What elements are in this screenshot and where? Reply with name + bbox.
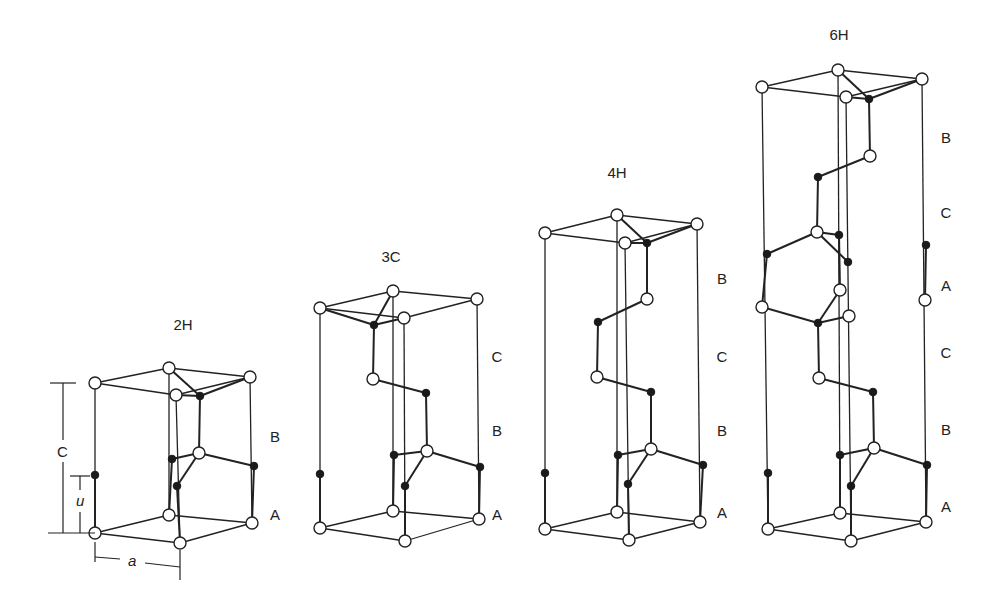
cell-edge <box>768 513 840 529</box>
bond-line <box>320 308 374 325</box>
silicon-atom <box>834 284 846 296</box>
silicon-atom <box>539 227 551 239</box>
stacking-layer-label: A <box>270 506 280 523</box>
bond-line <box>200 377 250 396</box>
carbon-atom <box>168 455 176 463</box>
stacking-layer-label: C <box>941 204 952 221</box>
silicon-atom <box>619 237 631 249</box>
bond-line <box>817 177 818 232</box>
silicon-atom <box>756 81 768 93</box>
cell-edge <box>629 522 700 540</box>
bond-line <box>479 467 480 519</box>
cell-edge <box>840 513 926 522</box>
silicon-atom <box>193 447 205 459</box>
bond-line <box>762 307 818 323</box>
carbon-atom <box>476 463 484 471</box>
cell-edge <box>768 529 851 541</box>
cell-edge <box>95 533 180 543</box>
dimension-markers: C u a <box>48 383 180 580</box>
bond-line <box>393 455 394 511</box>
silicon-atom <box>864 150 876 162</box>
cell-edge <box>545 233 625 243</box>
cell-edge <box>320 291 393 308</box>
silicon-atom <box>611 506 623 518</box>
bond-line <box>819 378 873 392</box>
silicon-atom <box>174 537 186 549</box>
silicon-atom <box>641 293 653 305</box>
unit-cell-4h: 4HBCBA <box>539 164 728 546</box>
silicon-atom <box>314 522 326 534</box>
bond-line <box>869 99 870 156</box>
carbon-atom <box>847 482 855 490</box>
carbon-atom <box>196 392 204 400</box>
unit-cell-6h: 6HBCACBA <box>756 26 952 547</box>
silicon-atom <box>314 302 326 314</box>
silicon-atom <box>920 516 932 528</box>
stacking-layer-label: B <box>492 422 502 439</box>
carbon-atom <box>922 241 930 249</box>
unit-cell-2h: 2HBA <box>89 316 280 549</box>
carbon-atom <box>763 250 771 258</box>
cell-edge <box>95 383 176 395</box>
stacking-layer-label: C <box>717 348 728 365</box>
stacking-layer-label: B <box>941 129 951 146</box>
carbon-atom <box>316 470 324 478</box>
silicon-atom <box>421 445 433 457</box>
u-dimension-label: u <box>76 492 85 509</box>
silicon-atom <box>611 209 623 221</box>
bond-line <box>874 448 927 465</box>
silicon-atom <box>813 372 825 384</box>
carbon-atom <box>869 388 877 396</box>
stacking-layer-label: B <box>717 422 727 439</box>
bond-line <box>373 325 374 379</box>
silicon-atom <box>811 226 823 238</box>
bond-line <box>617 455 618 512</box>
bond-line <box>426 393 427 451</box>
stacking-layer-label: B <box>717 270 727 287</box>
polytype-label: 3C <box>381 248 400 265</box>
stacking-layer-label: B <box>270 428 280 445</box>
bond-line <box>628 484 629 540</box>
bond-line <box>839 235 840 290</box>
silicon-atom <box>843 310 855 322</box>
carbon-atom <box>699 461 707 469</box>
cell-edge <box>404 299 477 318</box>
silicon-atom <box>916 73 928 85</box>
cell-edge <box>545 512 617 529</box>
bond-line <box>651 449 703 465</box>
cell-edge <box>545 529 629 540</box>
silicon-atom <box>89 377 101 389</box>
silicon-atom <box>244 371 256 383</box>
carbon-atom <box>923 461 931 469</box>
silicon-atom <box>868 442 880 454</box>
cell-edge <box>762 87 846 97</box>
carbon-atom <box>390 451 398 459</box>
bond-line <box>700 465 703 522</box>
bond-line <box>818 156 870 177</box>
silicon-atom <box>163 362 175 374</box>
carbon-atom <box>643 239 651 247</box>
cell-edge <box>180 523 252 543</box>
carbon-atom <box>836 451 844 459</box>
unit-cell-3c: 3CCBA <box>314 248 503 547</box>
bond-line <box>925 245 926 300</box>
silicon-atom <box>832 64 844 76</box>
cell-edge <box>617 215 697 224</box>
cell-edge <box>169 515 252 523</box>
bond-line <box>647 224 697 243</box>
silicon-atom <box>170 389 182 401</box>
silicon-atom <box>473 513 485 525</box>
silicon-atom <box>756 301 768 313</box>
sic-polytypes-diagram: 2HBA3CCBA4HBCBA6HBCACBA C u a <box>0 0 1001 599</box>
silicon-atom <box>919 294 931 306</box>
carbon-atom <box>614 451 622 459</box>
bond-line <box>252 466 254 523</box>
bond-line <box>597 322 598 377</box>
silicon-atom <box>591 371 603 383</box>
bond-line <box>199 453 254 466</box>
cell-edge <box>320 528 405 541</box>
cell-edge <box>545 215 617 233</box>
silicon-atom <box>387 285 399 297</box>
carbon-atom <box>814 319 822 327</box>
stacking-layer-label: A <box>717 504 727 521</box>
